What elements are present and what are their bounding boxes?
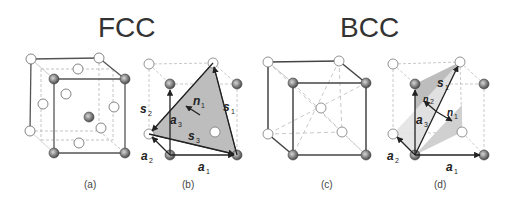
svg-text:2: 2	[430, 98, 434, 105]
svg-text:3: 3	[196, 137, 200, 144]
panel-c-bcc-cell	[263, 56, 371, 160]
svg-text:2: 2	[148, 110, 152, 117]
atom-open	[26, 54, 36, 64]
svg-text:a: a	[170, 113, 177, 127]
panel-a-fcc-cell	[25, 53, 130, 158]
svg-text:s: s	[223, 100, 230, 114]
svg-text:2: 2	[395, 157, 399, 164]
caption-b: (b)	[182, 179, 194, 190]
svg-text:s: s	[437, 76, 444, 90]
svg-text:n: n	[447, 107, 453, 118]
svg-text:1: 1	[454, 113, 458, 120]
svg-text:s: s	[188, 129, 195, 143]
vector-a2	[152, 137, 170, 155]
svg-text:1: 1	[445, 84, 449, 91]
label-s2: s	[140, 102, 147, 116]
svg-text:n: n	[423, 94, 429, 104]
caption-a: (a)	[84, 179, 96, 190]
svg-text:n: n	[193, 94, 200, 108]
svg-text:1: 1	[206, 168, 210, 175]
svg-text:3: 3	[424, 121, 428, 128]
caption-d: (d)	[434, 179, 446, 190]
svg-text:1: 1	[231, 108, 235, 115]
caption-c: (c)	[321, 179, 333, 190]
panel-d-bcc-slip: s 1 n 2 n 1 a 3 a 2 a 1	[387, 57, 489, 175]
svg-text:a: a	[416, 113, 423, 127]
svg-text:2: 2	[149, 157, 153, 164]
svg-text:a: a	[446, 160, 453, 174]
svg-text:1: 1	[201, 102, 205, 109]
svg-text:a: a	[141, 149, 148, 163]
svg-text:1: 1	[454, 168, 458, 175]
svg-text:a: a	[198, 160, 205, 174]
svg-text:a: a	[387, 149, 394, 163]
crystal-diagrams: s 2 a 3 n 1 s 1 s 3 a 2 a 1	[0, 0, 512, 201]
panel-b-fcc-slip: s 2 a 3 n 1 s 1 s 3 a 2 a 1	[140, 58, 242, 175]
svg-text:3: 3	[178, 121, 182, 128]
